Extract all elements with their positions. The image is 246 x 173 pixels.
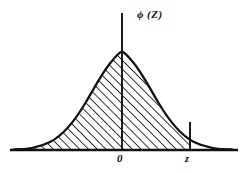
distribution-plot bbox=[0, 0, 246, 173]
normal-distribution-figure: ϕ (Z) 0 z bbox=[0, 0, 246, 173]
x-tick-label-z: z bbox=[185, 153, 189, 164]
y-axis-label: ϕ (Z) bbox=[137, 8, 163, 20]
shaded-area-under-curve bbox=[0, 0, 190, 150]
x-tick-label-zero: 0 bbox=[117, 152, 123, 164]
